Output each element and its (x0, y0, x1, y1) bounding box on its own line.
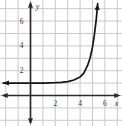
exponential-curve (3, 4, 98, 83)
x-axis-arrow-left (2, 93, 8, 98)
label-layer: 2 4 6 2 4 6 x y (20, 2, 119, 108)
x-tick-label: 2 (53, 99, 57, 108)
curve-layer (3, 4, 100, 86)
y-axis-arrow-top (28, 2, 33, 8)
y-axis-arrow-bottom (28, 118, 33, 124)
y-axis-label: y (35, 2, 40, 11)
graph-canvas: 2 4 6 2 4 6 x y (0, 0, 122, 126)
y-tick-label: 2 (20, 66, 24, 75)
x-axis-label: x (114, 99, 119, 108)
y-tick-label: 4 (20, 41, 24, 50)
x-tick-label: 6 (103, 99, 107, 108)
graph-figure: 2 4 6 2 4 6 x y (0, 0, 122, 126)
y-tick-label: 6 (20, 17, 24, 26)
x-tick-label: 4 (78, 99, 82, 108)
